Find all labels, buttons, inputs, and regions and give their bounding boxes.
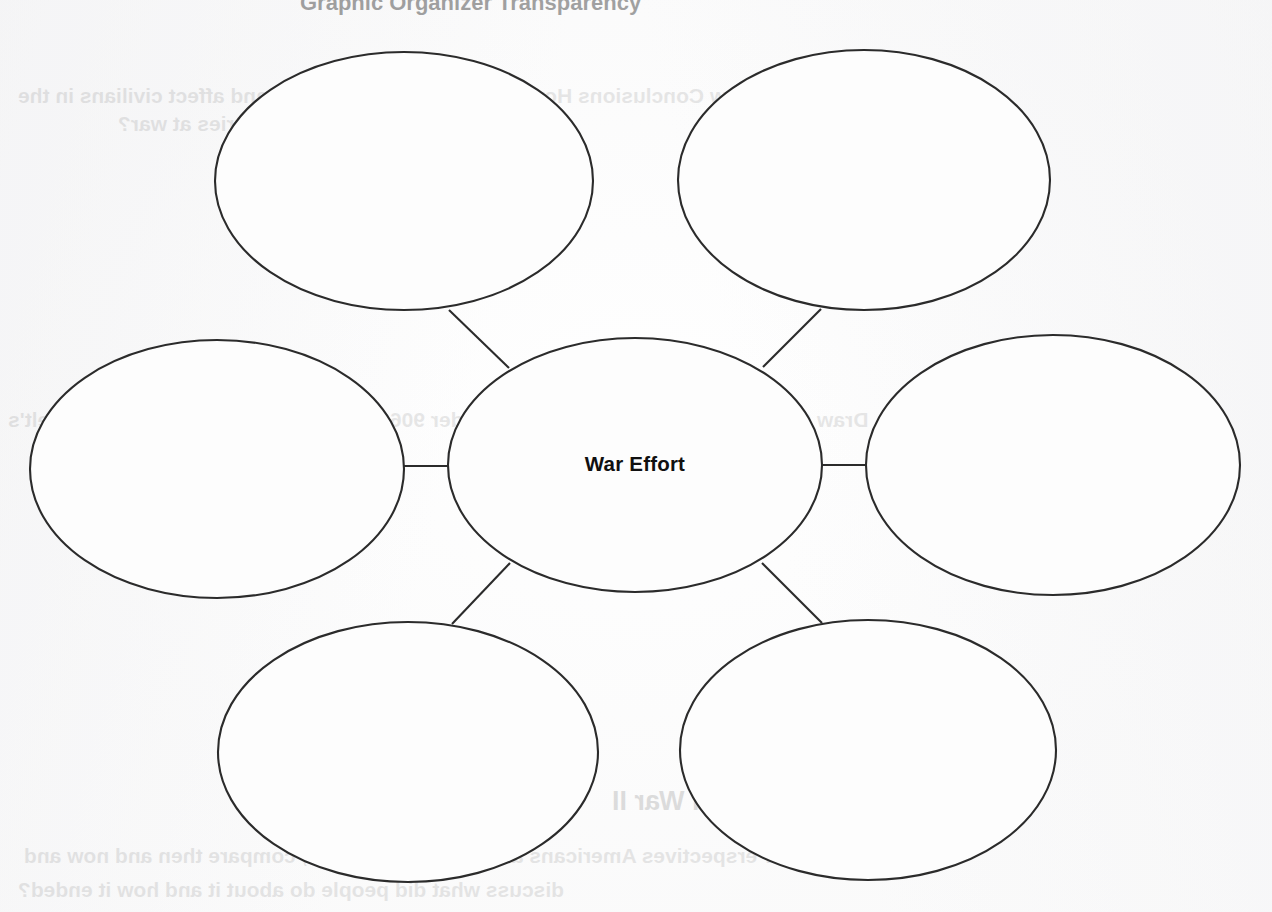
node-top-left-oval[interactable] [215,52,593,310]
connector-top-right [763,309,821,367]
concept-web-diagram: War Effort [0,0,1272,912]
connector-bottom-left [452,563,510,624]
node-middle-left[interactable] [30,340,404,598]
node-bottom-right-oval[interactable] [680,620,1056,880]
node-top-right[interactable] [678,50,1050,310]
node-middle-right-oval[interactable] [866,335,1240,595]
node-middle-left-oval[interactable] [30,340,404,598]
connector-top-left [449,310,509,368]
center-oval-label: War Effort [585,452,685,475]
node-bottom-left-oval[interactable] [218,622,598,882]
center-node[interactable]: War Effort [448,338,822,592]
connector-bottom-right [762,563,822,623]
worksheet-page: Graphic Organizer Transparency Draw Conc… [0,0,1272,912]
node-top-left[interactable] [215,52,593,310]
node-top-right-oval[interactable] [678,50,1050,310]
node-bottom-right[interactable] [680,620,1056,880]
node-middle-right[interactable] [866,335,1240,595]
node-bottom-left[interactable] [218,622,598,882]
